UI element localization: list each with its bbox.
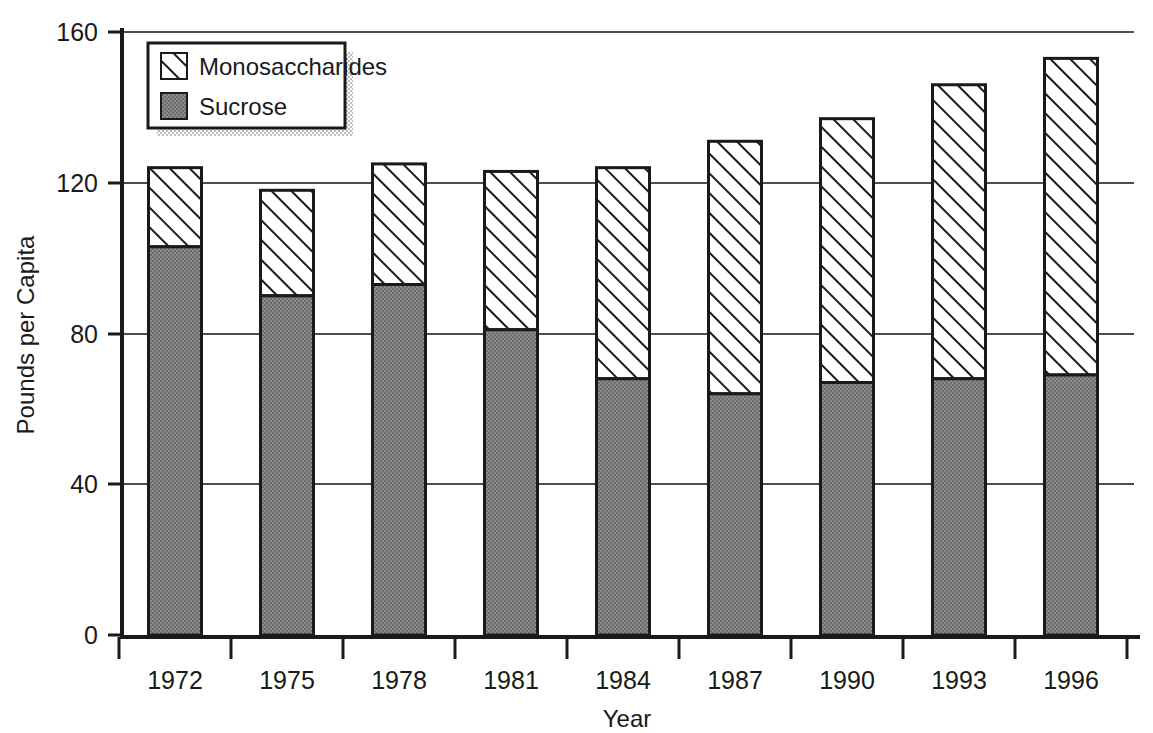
bar-segment-monosaccharides-1975 [261, 190, 314, 296]
x-tick-label-1987: 1987 [707, 666, 763, 694]
bar-group-1984 [597, 168, 650, 635]
y-tick-label-160: 160 [56, 18, 98, 46]
bar-segment-monosaccharides-1993 [933, 85, 986, 379]
bar-segment-sucrose-1993 [933, 379, 986, 635]
bar-segment-sucrose-1972 [149, 247, 202, 635]
bar-segment-sucrose-1990 [821, 382, 874, 635]
x-tick-label-1978: 1978 [371, 666, 427, 694]
x-tick-label-1984: 1984 [595, 666, 651, 694]
bar-group-1987 [709, 141, 762, 635]
bar-segment-monosaccharides-1990 [821, 119, 874, 383]
bar-group-1972 [149, 168, 202, 635]
bar-segment-sucrose-1996 [1045, 375, 1098, 635]
x-tick-label-1981: 1981 [483, 666, 539, 694]
bar-segment-monosaccharides-1987 [709, 141, 762, 394]
bar-segment-monosaccharides-1996 [1045, 58, 1098, 375]
y-axis-title: Pounds per Capita [12, 235, 39, 434]
legend-swatch-monosaccharides [161, 53, 187, 79]
bar-segment-sucrose-1981 [485, 330, 538, 635]
bar-group-1978 [373, 164, 426, 635]
bar-segment-monosaccharides-1981 [485, 171, 538, 329]
bar-segment-monosaccharides-1972 [149, 168, 202, 247]
bar-group-1981 [485, 171, 538, 635]
x-tick-label-1993: 1993 [931, 666, 987, 694]
bar-group-1996 [1045, 58, 1098, 635]
bar-group-1990 [821, 119, 874, 635]
legend-label-sucrose: Sucrose [199, 93, 287, 120]
x-axis-title: Year [603, 705, 652, 732]
x-tick-label-1996: 1996 [1043, 666, 1099, 694]
legend-label-monosaccharides: Monosaccharides [199, 53, 387, 80]
x-tick-label-1972: 1972 [147, 666, 203, 694]
y-tick-label-40: 40 [70, 470, 98, 498]
chart-container: 160 120 80 40 0 Pounds per Capita 1972 1… [0, 0, 1153, 733]
y-tick-label-0: 0 [84, 621, 98, 649]
bar-group-1993 [933, 85, 986, 635]
bar-segment-sucrose-1978 [373, 285, 426, 635]
bar-segment-sucrose-1987 [709, 394, 762, 635]
x-tick-label-1990: 1990 [819, 666, 875, 694]
bar-group-1975 [261, 190, 314, 635]
bar-segment-monosaccharides-1984 [597, 168, 650, 379]
bar-segment-sucrose-1984 [597, 379, 650, 635]
x-tick-label-1975: 1975 [259, 666, 315, 694]
y-tick-label-80: 80 [70, 320, 98, 348]
legend-swatch-sucrose [161, 93, 187, 119]
legend: Monosaccharides Sucrose [148, 43, 387, 136]
stacked-bar-chart: 160 120 80 40 0 Pounds per Capita 1972 1… [0, 0, 1153, 733]
y-tick-label-120: 120 [56, 169, 98, 197]
bar-segment-monosaccharides-1978 [373, 164, 426, 285]
bar-segment-sucrose-1975 [261, 296, 314, 635]
